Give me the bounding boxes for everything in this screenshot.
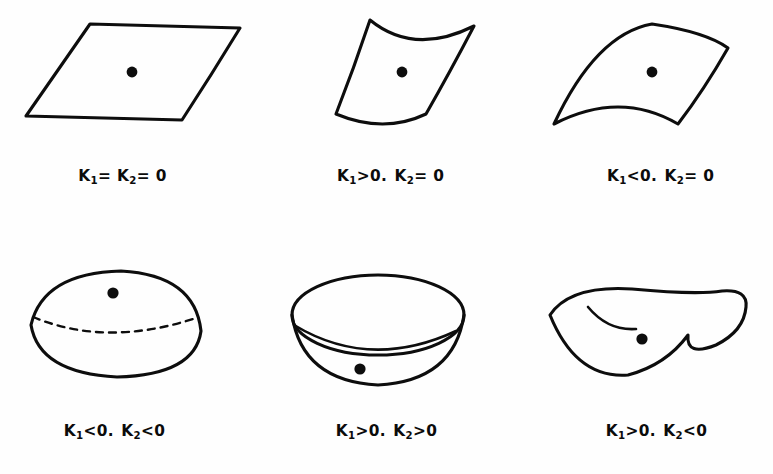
caption-relation-2: = 0 — [684, 166, 714, 185]
caption-separator: . — [381, 166, 389, 185]
bowl-rim-ellipse — [292, 275, 464, 355]
panel-saddle-caption: K1>0. K2<0 — [605, 421, 707, 442]
saddle-fold-crease — [588, 307, 636, 329]
caption-relation-2: = 0 — [414, 166, 444, 185]
caption-relation-2: <0 — [141, 421, 165, 440]
panel-grid: K1= K2= 0 K1>0. K2= 0 K1<0. — [0, 0, 773, 474]
caption-k2-symbol: K — [122, 421, 134, 440]
caption-relation-1: >0 — [357, 166, 381, 185]
caption-relation-1: <0 — [84, 421, 108, 440]
caption-relation-1: >0 — [625, 421, 649, 440]
bowl-illustration — [272, 259, 502, 409]
caption-k2-symbol: K — [663, 421, 675, 440]
bottom-point-dot — [355, 363, 366, 374]
caption-relation-2: = — [137, 166, 150, 185]
caption-separator: . — [651, 166, 659, 185]
center-point-dot — [397, 67, 408, 78]
caption-k1-subscript: 1 — [349, 174, 356, 187]
surface-point-dot — [107, 287, 118, 298]
panel-plane-caption: K1= K2= 0 — [79, 166, 168, 187]
saddle-illustration — [536, 259, 766, 409]
panel-plane: K1= K2= 0 — [0, 0, 258, 237]
caption-k2-subscript: 2 — [675, 429, 682, 442]
caption-k2-symbol: K — [393, 421, 405, 440]
panel-parabolic-up: K1>0. K2= 0 — [258, 0, 516, 237]
panel-parabolic-down-caption: K1<0. K2= 0 — [607, 166, 714, 187]
caption-relation-1: >0 — [355, 421, 379, 440]
plane-illustration — [12, 10, 242, 160]
center-point-dot — [647, 67, 658, 78]
dome-hidden-equator — [33, 317, 193, 333]
panel-bowl-caption: K1>0. K2>0 — [336, 421, 438, 442]
caption-k1-subscript: 1 — [618, 429, 625, 442]
caption-separator: . — [380, 421, 388, 440]
caption-k1-subscript: 1 — [619, 174, 626, 187]
caption-k2-subscript: 2 — [405, 429, 412, 442]
curvature-figure: K1= K2= 0 K1>0. K2= 0 K1<0. — [0, 0, 773, 474]
parabolic-down-illustration — [536, 10, 766, 160]
saddle-outline — [550, 289, 746, 376]
caption-separator: . — [108, 421, 116, 440]
panel-dome: K1<0. K2<0 — [0, 237, 258, 474]
caption-separator: . — [649, 421, 657, 440]
caption-k1-symbol: K — [605, 421, 617, 440]
panel-bowl: K1>0. K2>0 — [258, 237, 516, 474]
caption-relation-1: = — [98, 166, 111, 185]
panel-parabolic-down: K1<0. K2= 0 — [515, 0, 773, 237]
caption-value: 0 — [156, 166, 167, 185]
caption-k1-symbol: K — [336, 421, 348, 440]
caption-k1-symbol: K — [337, 166, 349, 185]
caption-relation-1: <0 — [626, 166, 650, 185]
caption-k2-subscript: 2 — [407, 174, 414, 187]
caption-k2-symbol: K — [117, 166, 129, 185]
center-point-dot — [126, 67, 137, 78]
parabolic-up-illustration — [274, 10, 504, 160]
caption-k1-symbol: K — [64, 421, 76, 440]
caption-k1-symbol: K — [607, 166, 619, 185]
caption-k1-symbol: K — [79, 166, 91, 185]
caption-relation-2: <0 — [683, 421, 707, 440]
caption-k2-symbol: K — [664, 166, 676, 185]
panel-parabolic-up-caption: K1>0. K2= 0 — [337, 166, 444, 187]
caption-relation-2: >0 — [413, 421, 437, 440]
dome-illustration — [9, 259, 239, 409]
panel-dome-caption: K1<0. K2<0 — [64, 421, 166, 442]
panel-saddle: K1>0. K2<0 — [515, 237, 773, 474]
caption-k2-symbol: K — [394, 166, 406, 185]
saddle-point-dot — [637, 333, 648, 344]
parabolic-down-outline — [554, 24, 728, 124]
caption-k2-subscript: 2 — [676, 174, 683, 187]
